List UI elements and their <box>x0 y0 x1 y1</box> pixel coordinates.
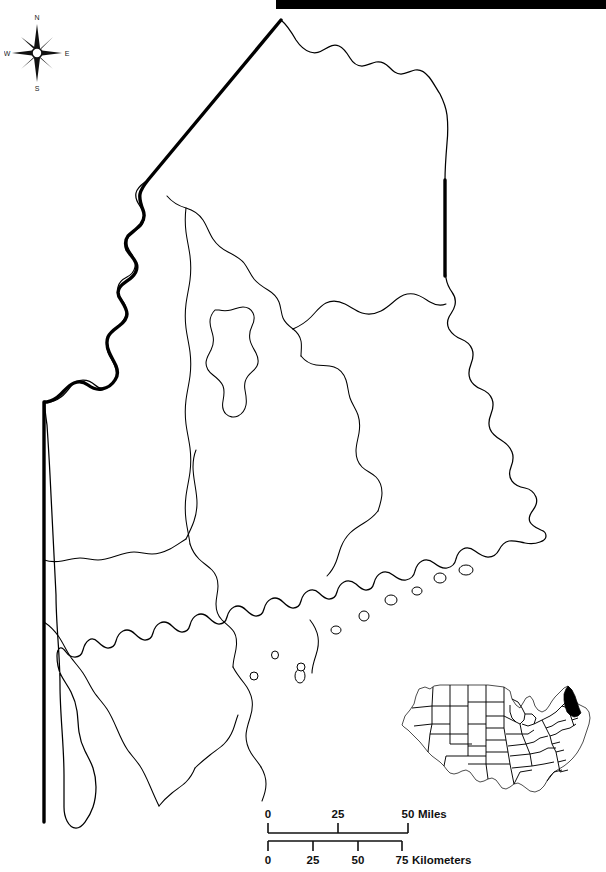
map-page: N S W E <box>0 0 606 872</box>
scale-bar: 0 25 50 Miles 0 25 <box>262 806 482 868</box>
compass-label-east: E <box>65 50 70 57</box>
scale-km-unit: Kilometers <box>412 854 471 866</box>
scale-km-tick-50: 50 <box>352 854 365 866</box>
us-contiguous-outline <box>402 685 590 792</box>
compass-label-west: W <box>4 50 11 57</box>
county-line-cumberland-sagadahoc <box>195 715 238 768</box>
compass-label-north: N <box>34 14 39 21</box>
county-line-lincoln-knox <box>261 767 266 801</box>
us-locator-inset-map <box>392 672 606 806</box>
scale-km-tick-25: 25 <box>307 854 320 866</box>
scale-miles-tick-50: 50 <box>402 808 415 820</box>
scale-km-tick-0: 0 <box>265 854 271 866</box>
scale-km-ticks <box>268 841 402 851</box>
compass-hub <box>32 48 42 58</box>
scale-miles-unit: Miles <box>418 808 447 820</box>
compass-label-south: S <box>35 85 40 92</box>
scale-miles-tick-25: 25 <box>332 808 345 820</box>
compass-rose: N S W E <box>4 14 70 92</box>
scale-miles-ticks <box>268 823 408 833</box>
scale-km-tick-75: 75 <box>396 854 409 866</box>
county-line-york-cumberland <box>159 768 195 806</box>
county-line-waldo-knox <box>310 620 318 673</box>
scale-miles-tick-0: 0 <box>265 808 271 820</box>
